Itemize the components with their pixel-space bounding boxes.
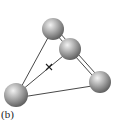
atom-middle <box>59 38 81 60</box>
tetrahedral-molecule-diagram <box>0 0 121 120</box>
bond-bottomleft-middle <box>22 56 63 90</box>
bond-top-bottomleft <box>19 34 50 91</box>
atoms <box>4 18 111 107</box>
center-x-marker-icon <box>46 64 52 70</box>
bond-middle-right-double <box>75 54 95 75</box>
atom-top <box>42 18 64 40</box>
atom-bottom-left <box>4 83 28 107</box>
figure-label: (b) <box>1 108 14 120</box>
atom-right <box>89 71 111 93</box>
bonds <box>19 32 95 97</box>
bond-bottomleft-right <box>22 86 92 97</box>
